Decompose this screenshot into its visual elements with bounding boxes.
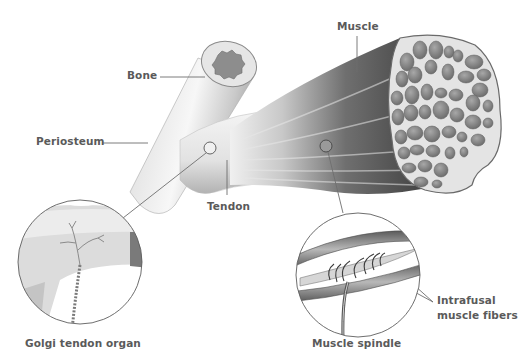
muscle-spindle-inset [290,213,430,340]
label-periosteum: Periosteum [36,135,105,147]
label-bone: Bone [127,69,157,81]
label-intrafusal-line1: Intrafusal [437,294,496,306]
label-golgi-tendon-organ: Golgi tendon organ [25,337,141,349]
label-muscle-spindle: Muscle spindle [312,337,401,349]
diagram-canvas: Bone Periosteum Muscle Tendon Golgi tend… [0,0,529,362]
label-muscle: Muscle [337,20,379,32]
anatomy-illustration [0,0,529,362]
golgi-tendon-organ-inset [10,195,150,330]
label-tendon: Tendon [207,200,250,212]
spindle-site-marker [320,140,332,152]
label-intrafusal-line2: muscle fibers [437,309,518,321]
golgi-site-marker [204,142,216,154]
muscle-cross-section [389,35,502,193]
